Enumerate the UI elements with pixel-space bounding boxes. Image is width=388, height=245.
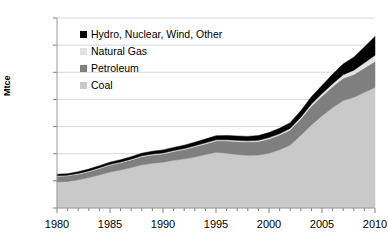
legend-label-hydro-nuclear-wind-other: Hydro, Nuclear, Wind, Other [91, 29, 222, 40]
legend-swatch-natural-gas [80, 48, 87, 55]
legend-label-natural-gas: Natural Gas [91, 46, 147, 57]
legend-item: Natural Gas [80, 44, 222, 59]
legend-swatch-coal [80, 82, 87, 89]
legend-label-coal: Coal [91, 80, 113, 91]
legend-item: Petroleum [80, 61, 222, 76]
legend-item: Hydro, Nuclear, Wind, Other [80, 27, 222, 42]
legend-swatch-hydro-nuclear-wind-other [80, 31, 87, 38]
legend-label-petroleum: Petroleum [91, 63, 139, 74]
legend-item: Coal [80, 78, 222, 93]
legend-swatch-petroleum [80, 65, 87, 72]
legend: Hydro, Nuclear, Wind, Other Natural Gas … [80, 27, 222, 95]
stacked-area-chart: Mtce 0500100015002000250030003500 198019… [0, 0, 388, 245]
